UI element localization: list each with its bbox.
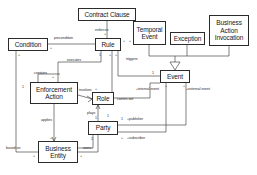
class-label-temporal-event: Temporal Event [134, 26, 165, 41]
edge-generalization-bus [149, 45, 229, 56]
class-label-condition: Condition [14, 41, 43, 49]
multiplicity-event-left: 1 [152, 71, 154, 75]
multiplicity-condition-right: + [50, 46, 52, 50]
multiplicity-entity-right: + [80, 154, 82, 158]
multiplicity-rule-right-2: + [129, 39, 131, 43]
edge-label-contains: contains [34, 71, 47, 75]
edge-label-executes: executes [67, 58, 81, 62]
multiplicity-entity-left: + [33, 154, 35, 158]
edge-enforcement-action-contains [38, 74, 60, 82]
class-box-party[interactable]: Party [88, 121, 118, 135]
multiplicity-role-top: + [95, 87, 97, 91]
class-box-event[interactable]: Event [160, 70, 190, 83]
edge-label-owns: owns [83, 146, 91, 150]
edge-label-precondition: precondition [54, 36, 73, 40]
class-label-business-action-invocation: Business Action Invocation [210, 19, 248, 42]
class-label-role: Role [96, 95, 111, 103]
multiplicity-party-bottom: 1 [91, 137, 93, 141]
class-box-role[interactable]: Role [92, 92, 114, 105]
uml-class-diagram: Contract Clause Condition Rule Temporal … [0, 0, 257, 175]
multiplicity-rule-bottom-1: 1 [99, 53, 101, 57]
edge-rule-enforcement-action [58, 51, 101, 82]
class-box-enforcement-action[interactable]: Enforcement Action [30, 82, 78, 104]
class-label-party: Party [95, 124, 112, 132]
class-box-condition[interactable]: Condition [8, 38, 48, 51]
edge-label-applies: applies [41, 118, 52, 122]
generalization-triangle-icon [170, 62, 180, 70]
edge-label-carries-out: carries out [117, 97, 133, 101]
class-label-contract-clause: Contract Clause [83, 11, 130, 19]
multiplicity-party-top: 1 [107, 114, 109, 118]
class-label-rule: Rule [101, 41, 116, 49]
multiplicity-party-publisher: 1 [121, 117, 123, 121]
multiplicity-enforcement-top: + [52, 75, 54, 79]
edge-label-subscriber: +subscriber [127, 136, 145, 140]
multiplicity-clause-rule: + [104, 32, 106, 36]
multiplicity-rule-bottom-2: + [109, 53, 111, 57]
edge-label-involves: involves [79, 88, 92, 92]
class-label-event: Event [166, 73, 184, 81]
multiplicity-condition-below: + [18, 53, 20, 57]
edge-label-based-on: based on [6, 146, 20, 150]
class-box-business-entity[interactable]: Business Entity [38, 141, 78, 163]
class-box-rule[interactable]: Rule [95, 38, 121, 51]
multiplicity-party-subscriber: + [121, 136, 123, 140]
edge-enforcement-action-role [78, 95, 92, 99]
class-box-contract-clause[interactable]: Contract Clause [78, 8, 136, 21]
edge-label-plays: plays [87, 111, 95, 115]
class-label-exception: Exception [173, 35, 203, 43]
class-box-business-action-invocation[interactable]: Business Action Invocation [209, 15, 249, 46]
edge-label-triggers: triggers [126, 57, 138, 61]
multiplicity-plays: 1 [95, 116, 97, 120]
class-box-exception[interactable]: Exception [170, 32, 205, 45]
class-label-enforcement-action: Enforcement Action [31, 86, 77, 101]
class-label-business-entity: Business Entity [39, 145, 77, 160]
multiplicity-entity-top: + [50, 136, 52, 140]
edge-label-external-event: +external event [186, 87, 210, 91]
edge-label-internal-event: +internal event [136, 87, 159, 91]
multiplicity-enforcement-left: 1 [22, 85, 24, 89]
edge-label-enforces: enforces [95, 28, 108, 32]
multiplicity-rule-right: + [123, 39, 125, 43]
class-box-temporal-event[interactable]: Temporal Event [133, 21, 166, 45]
multiplicity-event-bottom-1: + [165, 84, 167, 88]
edge-label-publisher: +publisher [127, 117, 143, 121]
multiplicity-event-bottom-2: + [183, 84, 185, 88]
multiplicity-rule-bottom-3: + [115, 53, 117, 57]
